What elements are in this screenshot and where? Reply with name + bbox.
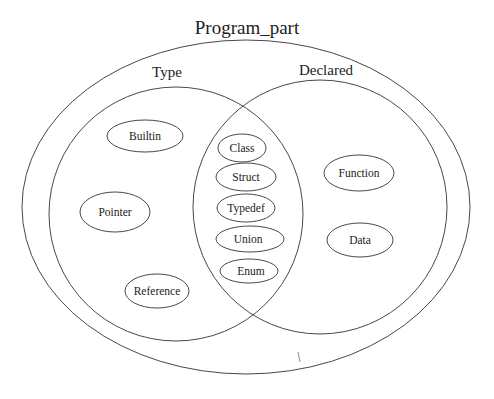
node-enum: Enum — [220, 259, 278, 283]
node-class: Class — [218, 134, 266, 162]
node-builtin: Builtin — [107, 120, 183, 152]
svg-text:Builtin: Builtin — [129, 130, 161, 142]
svg-text:Data: Data — [349, 234, 371, 246]
svg-text:Enum: Enum — [237, 265, 265, 277]
svg-text:Union: Union — [234, 233, 263, 245]
type-label: Type — [152, 64, 182, 80]
svg-text:Pointer: Pointer — [98, 206, 131, 218]
svg-text:Typedef: Typedef — [227, 202, 265, 215]
node-typedef: Typedef — [217, 194, 275, 222]
svg-text:Struct: Struct — [232, 171, 260, 183]
svg-text:Class: Class — [230, 142, 255, 154]
node-reference: Reference — [125, 274, 189, 308]
node-struct: Struct — [216, 163, 276, 191]
declared-label: Declared — [299, 62, 354, 78]
node-data: Data — [327, 223, 393, 257]
venn-svg: Program_part Type Declared Builtin Point… — [0, 0, 494, 399]
node-pointer: Pointer — [80, 192, 150, 232]
scan-mark — [298, 352, 300, 362]
node-union: Union — [216, 226, 284, 252]
node-function: Function — [324, 155, 394, 191]
venn-diagram: Program_part Type Declared Builtin Point… — [0, 0, 494, 399]
svg-text:Reference: Reference — [134, 285, 181, 297]
svg-text:Function: Function — [339, 167, 380, 179]
program-part-label: Program_part — [195, 17, 300, 38]
type-set — [49, 87, 303, 341]
